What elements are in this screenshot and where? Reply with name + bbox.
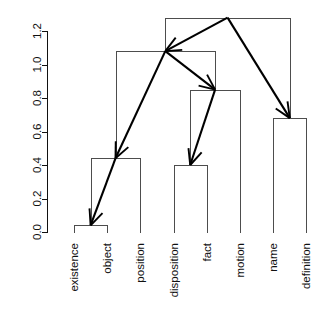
dendrogram-link [166,18,290,119]
arrow-node108-to-node085 [165,51,215,90]
arrow-node085-to-node040 [190,90,215,165]
leaf-labels-group: existenceobjectpositiondispositionfactmo… [68,242,312,297]
y-axis-tick-label: 0.6 [31,124,43,140]
y-axis-tick-label: 0.4 [31,156,43,173]
leaf-label-definition: definition [300,243,312,289]
dendrogram-link [116,52,216,159]
leaf-label-name: name [267,243,279,272]
y-axis-group: 0.00.20.40.60.81.01.2 [31,23,48,240]
leaf-label-motion: motion [234,243,246,278]
arrow-node085-to-node040-head [188,148,190,165]
leaf-label-fact: fact [201,242,213,261]
arrow-node108-to-node044 [116,51,166,158]
y-axis-tick-label: 0.8 [31,90,43,106]
dendrogram-link [191,90,241,232]
y-axis-tick-label: 0.0 [31,224,43,240]
arrow-node044-to-node004-head [90,208,91,225]
arrow-root-to-left-subtree-head [165,50,182,51]
dendrogram-tree-group [75,18,307,232]
leaf-label-object: object [101,242,113,273]
y-axis-tick-label: 1.2 [31,23,43,39]
y-axis-tick-label: 0.2 [31,191,43,207]
leaf-label-position: position [134,243,146,283]
dendrogram-link [75,226,108,233]
arrow-root-to-left-subtree [165,18,227,52]
arrow-node044-to-node004 [91,158,116,225]
dendrogram-canvas: 0.00.20.40.60.81.01.2 existenceobjectpos… [0,0,329,316]
arrow-root-to-name-definition [228,18,290,119]
leaf-label-disposition: disposition [168,243,180,297]
arrow-overlay-group [90,18,290,226]
dendrogram-link [274,119,307,233]
dendrogram-link [91,159,141,233]
y-axis-tick-label: 1.0 [31,57,43,73]
dendrogram-link [174,166,207,233]
dendrogram-figure: 0.00.20.40.60.81.01.2 existenceobjectpos… [0,0,329,316]
leaf-label-existence: existence [68,243,80,292]
